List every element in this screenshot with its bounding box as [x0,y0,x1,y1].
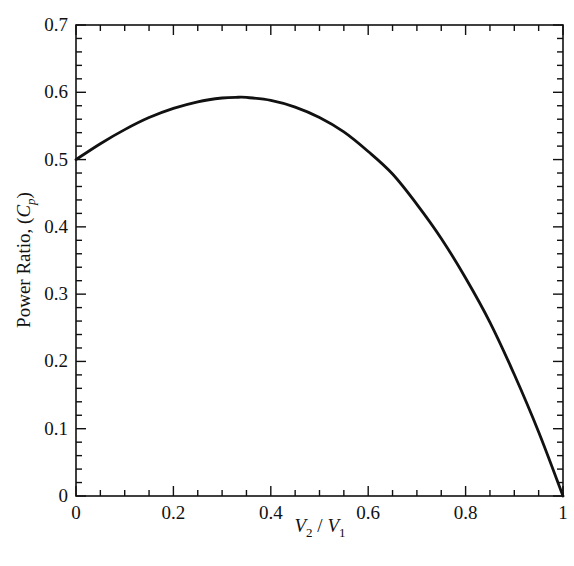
y-tick-label: 0.7 [44,14,68,35]
power-ratio-chart: 00.20.40.60.81 00.10.20.30.40.50.60.7 V2… [0,0,574,566]
x-tick-label: 0 [71,502,81,523]
plot-frame [76,25,563,496]
y-tick-label: 0.1 [44,418,68,439]
x-tick-label: 0.4 [259,502,283,523]
cp-curve [76,97,563,496]
y-axis-label: Power Ratio, (Cp) [13,192,38,328]
x-tick-label: 0.8 [454,502,478,523]
y-tick-label: 0.4 [44,216,68,237]
y-tick-label: 0.2 [44,350,68,371]
y-tick-labels: 00.10.20.30.40.50.60.7 [44,14,68,506]
x-tick-label: 0.2 [162,502,186,523]
x-tick-label: 1 [558,502,568,523]
axis-ticks [76,25,563,496]
x-tick-label: 0.6 [356,502,380,523]
y-tick-label: 0 [59,485,69,506]
y-tick-label: 0.3 [44,283,68,304]
y-tick-label: 0.6 [44,81,68,102]
y-tick-label: 0.5 [44,149,68,170]
x-axis-label: V2 / V1 [295,515,346,540]
